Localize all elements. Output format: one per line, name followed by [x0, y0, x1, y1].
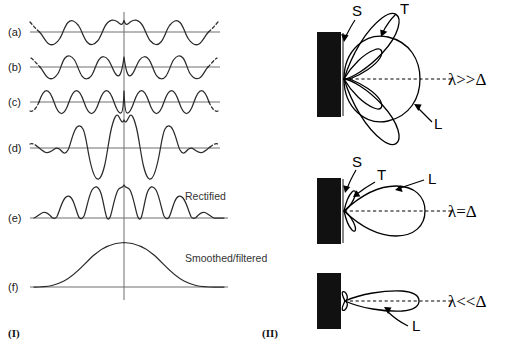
panel-II: S T L λ>>Δ [262, 0, 486, 340]
row-label-a: (a) [8, 26, 21, 38]
panel-I: (a) (b) (c) [8, 12, 267, 340]
row-c-wave-dash-left [30, 102, 39, 111]
leader-line-T-2 [357, 182, 375, 194]
row-label-d: (d) [8, 142, 21, 154]
row-a-wave-dash-right [209, 22, 219, 32]
row-label-b: (b) [8, 61, 21, 73]
label-S-2: S [352, 153, 362, 170]
label-L-3: L [412, 317, 420, 334]
leader-arrow-S-2 [343, 185, 350, 193]
row-c-wave-dash-right [209, 102, 218, 111]
beam-diagram-lambda-much-less: L λ<<Δ [317, 273, 486, 334]
beam-diagram-lambda-much-greater: S T L λ>>Δ [317, 0, 486, 145]
row-e-annotation: Rectified [185, 190, 226, 202]
label-S-1: S [352, 2, 362, 19]
figure-root: (a) (b) (c) [0, 0, 506, 352]
figure-canvas: (a) (b) (c) [0, 0, 506, 352]
label-L-2: L [428, 170, 436, 187]
side-lobe-3-lower [342, 301, 347, 310]
row-b-wave-dash-right [208, 58, 217, 67]
condition-lambda-3: λ<<Δ [448, 292, 486, 311]
waveform-row-e: (e) Rectified [8, 185, 228, 224]
row-d-wave-dash-left [30, 144, 38, 147]
condition-lambda-2: λ=Δ [448, 202, 477, 221]
row-label-c: (c) [8, 96, 21, 108]
leader-line-L-1 [418, 108, 432, 122]
row-b-wave-dash-left [31, 58, 40, 67]
side-lobe-1-lower-outer [344, 79, 399, 145]
label-T-2: T [377, 166, 386, 183]
label-L-1: L [434, 115, 442, 132]
row-f-wave [34, 243, 224, 288]
waveform-row-a: (a) [8, 20, 220, 45]
row-label-e: (e) [8, 212, 21, 224]
leader-line-L-2 [400, 180, 424, 188]
leader-arrow-S-1 [341, 34, 348, 42]
waveform-row-f: (f) Smoothed/filtered [8, 243, 267, 294]
panel-I-caption: (I) [8, 327, 20, 340]
waveform-row-d: (d) [8, 115, 220, 179]
waveform-row-b: (b) [8, 56, 220, 79]
row-d-wave-dash-right [210, 144, 218, 147]
side-lobe-3-upper [342, 292, 347, 301]
row-label-f: (f) [8, 281, 18, 293]
label-T-1: T [400, 0, 409, 17]
beam-diagram-lambda-equal: S T L λ=Δ [317, 153, 477, 244]
panel-II-caption: (II) [262, 327, 278, 340]
waveform-row-c: (c) [8, 91, 220, 114]
leader-line-L-3 [387, 311, 408, 326]
side-lobe-2-upper [344, 191, 356, 211]
row-f-annotation: Smoothed/filtered [185, 252, 267, 264]
transducer-slab-1 [317, 32, 341, 117]
condition-lambda-1: λ>>Δ [448, 70, 486, 89]
transducer-slab-2 [317, 178, 341, 244]
row-a-wave-dash-left [30, 22, 40, 32]
leader-line-S-2 [347, 170, 356, 189]
transducer-slab-3 [317, 273, 341, 329]
side-lobe-2-lower [344, 211, 356, 231]
